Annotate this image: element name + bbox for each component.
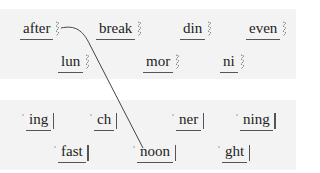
tile-label: noon (140, 143, 170, 159)
tile-label: after (23, 20, 50, 36)
tile-label: ght (225, 143, 244, 159)
tile-ch[interactable]: ch (94, 110, 114, 131)
torn-edge-icon (207, 20, 212, 38)
tile-ning[interactable]: ning (240, 110, 273, 131)
tile-edge (116, 113, 117, 129)
tile-label: din (183, 20, 202, 36)
tile-lead-mark (54, 146, 56, 148)
tile-ni[interactable]: ni (220, 52, 238, 73)
tile-edge (87, 145, 88, 161)
tile-fast[interactable]: fast (58, 142, 86, 163)
tile-ght[interactable]: ght (222, 142, 247, 163)
tile-edge (53, 113, 54, 129)
tile-even[interactable]: even (246, 19, 280, 40)
tile-mor[interactable]: mor (143, 52, 173, 73)
tile-edge (175, 145, 176, 161)
tile-label: ner (179, 111, 198, 127)
tile-label: ning (243, 111, 270, 127)
tile-label: lun (61, 53, 80, 69)
torn-edge-icon (137, 20, 142, 38)
tile-label: even (249, 20, 277, 36)
tile-lun[interactable]: lun (58, 52, 83, 73)
tile-lead-mark (22, 114, 24, 116)
torn-edge-icon (85, 53, 90, 71)
tile-ing[interactable]: ing (26, 110, 51, 131)
tile-edge (203, 113, 204, 129)
tile-label: ing (29, 111, 48, 127)
torn-edge-icon (175, 53, 180, 71)
tile-lead-mark (218, 146, 220, 148)
tile-label: ni (223, 53, 235, 69)
tile-noon[interactable]: noon (137, 142, 173, 163)
tile-edge (249, 145, 250, 161)
tile-lead-mark (172, 114, 174, 116)
tile-lead-mark (133, 146, 135, 148)
tile-lead-mark (90, 114, 92, 116)
tile-din[interactable]: din (180, 19, 205, 40)
tile-edge (274, 113, 275, 129)
torn-edge-icon (240, 53, 245, 71)
tile-break[interactable]: break (96, 19, 135, 40)
tile-ner[interactable]: ner (176, 110, 201, 131)
tile-lead-mark (236, 114, 238, 116)
tile-after[interactable]: after (20, 19, 53, 40)
torn-edge-icon (282, 20, 287, 38)
tile-label: mor (146, 53, 170, 69)
torn-edge-icon (55, 20, 60, 38)
tile-label: fast (61, 143, 83, 159)
tile-label: break (99, 20, 132, 36)
tile-label: ch (97, 111, 111, 127)
